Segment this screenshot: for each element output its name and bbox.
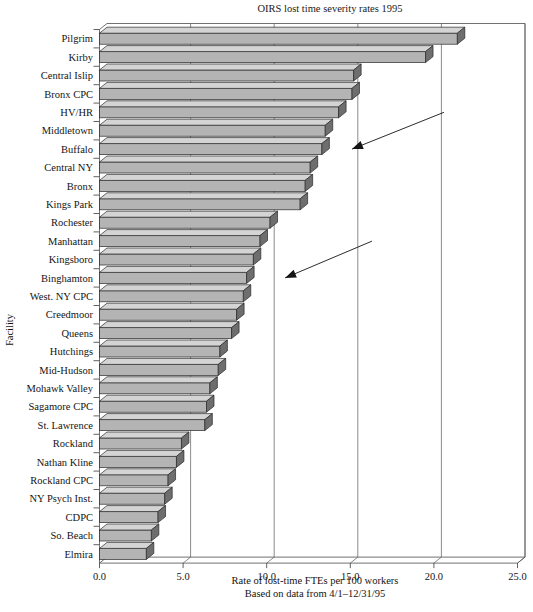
chart-container: OIRS lost time severity rates 1995 Pilgr… bbox=[0, 0, 533, 612]
grid-line-20.0 bbox=[434, 24, 442, 564]
bar-top-face bbox=[100, 193, 308, 199]
x-tick-label-4: 20.0 bbox=[425, 571, 443, 582]
category-label-8: Bronx bbox=[67, 181, 94, 192]
bar-top-face bbox=[100, 450, 184, 456]
bar-top-face bbox=[100, 230, 268, 236]
bar-front-face bbox=[100, 493, 165, 504]
bar-front-face bbox=[100, 475, 169, 486]
bar-top-face bbox=[100, 414, 213, 420]
bar-top-face bbox=[100, 248, 261, 254]
bar-26 bbox=[100, 506, 166, 523]
bar-front-face bbox=[100, 401, 207, 412]
bar-front-face bbox=[100, 180, 306, 191]
bar-front-face bbox=[100, 291, 244, 302]
bar-front-face bbox=[100, 512, 159, 523]
bar-front-face bbox=[100, 530, 152, 541]
category-label-17: Hutchings bbox=[50, 346, 93, 357]
bars-group bbox=[100, 27, 465, 559]
x-tick-label-5: 25.0 bbox=[508, 571, 526, 582]
bar-25 bbox=[100, 487, 173, 504]
bar-top-face bbox=[100, 174, 313, 180]
bar-13 bbox=[100, 266, 255, 283]
lower-arrow bbox=[285, 241, 372, 278]
bar-21 bbox=[100, 414, 213, 431]
bar-top-face bbox=[100, 285, 251, 291]
category-label-16: Queens bbox=[62, 328, 94, 339]
bar-top-face bbox=[100, 506, 166, 512]
category-label-22: Rockland bbox=[53, 438, 94, 449]
bar-top-face bbox=[100, 266, 255, 272]
grid-line-25.0 bbox=[518, 24, 526, 564]
bar-8 bbox=[100, 174, 313, 191]
bar-top-face bbox=[100, 487, 173, 493]
bar-top-face bbox=[100, 101, 347, 107]
bar-15 bbox=[100, 303, 245, 320]
upper-arrow bbox=[352, 112, 444, 149]
bar-top-face bbox=[100, 524, 159, 530]
bar-10 bbox=[100, 211, 278, 228]
category-label-3: Bronx CPC bbox=[44, 89, 93, 100]
category-label-5: Middletown bbox=[42, 125, 94, 136]
bar-16 bbox=[100, 322, 240, 339]
bar-6 bbox=[100, 138, 330, 155]
x-axis-subtitle: Based on data from 4/1–12/31/95 bbox=[245, 588, 386, 599]
category-label-13: Binghamton bbox=[41, 273, 94, 284]
bar-front-face bbox=[100, 548, 147, 559]
category-label-23: Nathan Kline bbox=[37, 457, 94, 468]
bar-top-face bbox=[100, 303, 245, 309]
bar-4 bbox=[100, 101, 347, 118]
bar-top-face bbox=[100, 340, 228, 346]
category-label-26: CDPC bbox=[66, 512, 93, 523]
bar-top-face bbox=[100, 64, 362, 70]
bar-front-face bbox=[100, 254, 254, 265]
bar-top-face bbox=[100, 211, 278, 217]
category-label-0: Pilgrim bbox=[61, 33, 93, 44]
bar-chart: OIRS lost time severity rates 1995 Pilgr… bbox=[0, 0, 533, 612]
bar-front-face bbox=[100, 272, 247, 283]
bar-front-face bbox=[100, 438, 182, 449]
x-axis-title: Rate of lost-time FTEs per 100 workers bbox=[232, 575, 399, 586]
bar-front-face bbox=[100, 328, 232, 339]
bar-2 bbox=[100, 64, 362, 81]
bar-top-face bbox=[100, 395, 215, 401]
bar-top-face bbox=[100, 377, 218, 383]
bar-front-face bbox=[100, 52, 426, 63]
category-label-28: Elmira bbox=[64, 549, 93, 560]
bar-11 bbox=[100, 230, 268, 247]
bar-19 bbox=[100, 377, 218, 394]
bar-top-face bbox=[100, 138, 330, 144]
category-label-11: Manhattan bbox=[48, 236, 94, 247]
category-label-21: St. Lawrence bbox=[38, 420, 94, 431]
annotations-group bbox=[285, 112, 444, 278]
bar-top-face bbox=[100, 322, 240, 328]
upper-arrow-line bbox=[352, 112, 444, 149]
lower-arrow-line bbox=[285, 241, 372, 278]
category-label-15: Creedmoor bbox=[46, 309, 94, 320]
category-label-10: Rochester bbox=[51, 217, 93, 228]
bar-front-face bbox=[100, 346, 220, 357]
category-label-27: So. Beach bbox=[50, 530, 93, 541]
category-label-1: Kirby bbox=[69, 52, 94, 63]
bar-1 bbox=[100, 46, 434, 63]
bar-front-face bbox=[100, 383, 210, 394]
bar-top-face bbox=[100, 432, 189, 438]
bar-17 bbox=[100, 340, 228, 357]
bar-5 bbox=[100, 119, 333, 136]
bar-9 bbox=[100, 193, 308, 210]
bar-top-face bbox=[100, 46, 434, 52]
category-label-2: Central Islip bbox=[41, 70, 93, 81]
bar-front-face bbox=[100, 420, 205, 431]
y-axis-title: Facility bbox=[4, 313, 15, 346]
category-label-20: Sagamore CPC bbox=[29, 401, 93, 412]
chart-title: OIRS lost time severity rates 1995 bbox=[258, 3, 403, 14]
category-label-14: West. NY CPC bbox=[30, 291, 93, 302]
category-label-4: HV/HR bbox=[60, 107, 93, 118]
bar-front-face bbox=[100, 33, 458, 44]
bar-front-face bbox=[100, 364, 219, 375]
bar-top-face bbox=[100, 469, 176, 475]
bar-front-face bbox=[100, 88, 352, 99]
bar-front-face bbox=[100, 70, 354, 81]
x-tick-label-0: 0.0 bbox=[93, 571, 106, 582]
bar-7 bbox=[100, 156, 318, 173]
category-label-7: Central NY bbox=[44, 162, 93, 173]
